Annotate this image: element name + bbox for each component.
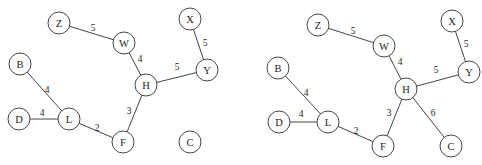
graph-right-edge-weight-W-H: 4 (398, 57, 403, 67)
graph-right-node-B-label: B (274, 63, 281, 74)
graph-right-edge-weight-D-L: 4 (299, 109, 304, 119)
graph-right-node-F-label: F (380, 141, 386, 152)
graph-left-node-F-label: F (120, 137, 126, 148)
graph-right-edge-weight-B-L: 4 (304, 88, 309, 98)
graph-left-edge-weight-F-H: 3 (127, 106, 132, 116)
graph-left-node-C-label: C (186, 137, 193, 148)
graph-left-edge-weight-B-L: 4 (45, 85, 50, 95)
graph-left-edge-weight-L-F: 2 (95, 123, 100, 133)
graph-right-node-W-label: W (379, 41, 389, 52)
graph-left-edge-weight-D-L: 4 (40, 108, 45, 118)
graph-right-edge-weight-L-F: 2 (354, 126, 359, 136)
graph-right-edge-weight-Z-W: 5 (351, 26, 356, 36)
graph-right: ZWXYBHDLFC545544236 (267, 10, 480, 157)
graph-right-node-Z-label: Z (315, 20, 321, 31)
graph-right-node-X-label: X (448, 16, 456, 27)
graph-left-node-D-label: D (15, 114, 23, 125)
graph-right-node-L-label: L (325, 117, 331, 128)
graph-left-edge-weight-H-Y: 5 (175, 62, 180, 72)
graph-left-node-X-label: X (186, 14, 194, 25)
graph-left-edge-weight-W-H: 4 (138, 54, 143, 64)
graph-right-node-H-label: H (402, 84, 410, 95)
graph-left-node-Y-label: Y (203, 65, 211, 76)
graph-left-node-B-label: B (16, 59, 23, 70)
graph-right-node-C-label: C (447, 141, 454, 152)
graph-left: ZWXYBHDLFC54554423 (8, 8, 218, 153)
graph-right-node-D-label: D (275, 117, 283, 128)
graph-diagram-canvas: ZWXYBHDLFC54554423ZWXYBHDLFC545544236 (0, 0, 482, 165)
graph-left-node-L-label: L (66, 114, 72, 125)
graph-left-edge-weight-Z-W: 5 (91, 23, 96, 33)
graph-left-node-H-label: H (142, 80, 150, 91)
graph-left-node-W-label: W (119, 38, 129, 49)
graph-left-edge-weight-X-Y: 5 (203, 38, 208, 48)
weighted-graph-svg: ZWXYBHDLFC54554423ZWXYBHDLFC545544236 (0, 0, 482, 165)
graph-left-node-Z-label: Z (56, 18, 62, 29)
graph-right-edge-weight-X-Y: 5 (464, 39, 469, 49)
graph-right-edge-weight-H-C: 6 (431, 108, 436, 118)
graph-right-edge-weight-H-Y: 5 (434, 65, 439, 75)
graph-right-edge-weight-F-H: 3 (387, 108, 392, 118)
graph-right-node-Y-label: Y (465, 67, 473, 78)
